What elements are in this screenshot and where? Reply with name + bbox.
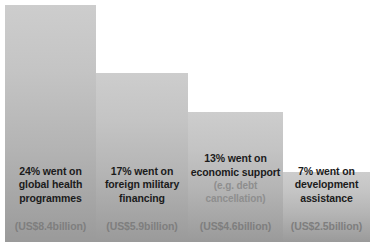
bar-category-line-1: global health [19,178,82,190]
bar-development-assistance: 7% went on development assistance (US$2.… [283,172,370,242]
bar-percent-label: 7% went on [298,165,355,177]
bar-amount-label: (US$2.5billion) [283,220,370,233]
bar-category-line-2: programmes [19,192,82,204]
bar-category-line-1: economic support [191,166,280,178]
bar-note-line-1: (e.g. debt [189,179,282,192]
bar-economic-support: 13% went on economic support (e.g. debt … [188,112,283,242]
bar-percent-label: 24% went on [19,165,82,177]
bar-foreign-military-financing: 17% went on foreign military financing (… [96,73,188,242]
bar-label: 7% went on development assistance [283,165,370,206]
bar-amount-label: (US$5.9billion) [96,220,188,233]
bar-category-line-2: financing [119,192,165,204]
bar-label: 24% went on global health programmes [5,165,96,206]
bar-percent-label: 17% went on [111,165,174,177]
bar-label: 17% went on foreign military financing [96,165,188,206]
bar-category-line-1: foreign military [105,178,179,190]
bar-amount-label: (US$8.4billion) [5,220,96,233]
bar-category-line-1: development [295,178,359,190]
bar-category-line-2: assistance [300,192,353,204]
bar-chart: 24% went on global health programmes (US… [0,0,375,252]
bar-label: 13% went on economic support (e.g. debt … [188,152,283,205]
bar-global-health-programmes: 24% went on global health programmes (US… [5,5,96,242]
bar-amount-label: (US$4.6billion) [188,220,283,233]
bar-note-line-2: cancellation) [189,192,282,205]
bar-percent-label: 13% went on [204,152,267,164]
